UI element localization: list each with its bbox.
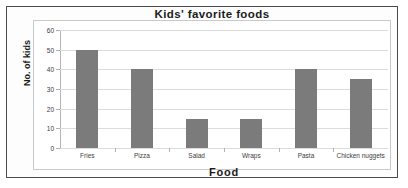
x-category-label: Wraps	[224, 152, 279, 160]
y-tick-label: 30	[47, 86, 54, 93]
x-category-label: Pizza	[115, 152, 170, 160]
bar	[186, 119, 208, 149]
y-tick-mark	[56, 50, 60, 51]
x-tick-mark	[115, 148, 116, 152]
y-tick-label: 60	[47, 27, 54, 34]
x-tick-mark	[279, 148, 280, 152]
y-tick-mark	[56, 69, 60, 70]
bar	[131, 69, 153, 148]
plot-area: 0102030405060FriesPizzaSaladWrapsPastaCh…	[60, 30, 388, 148]
gridline	[60, 89, 388, 90]
chart-figure: Kids' favorite foods No. of kids Food 01…	[0, 0, 408, 188]
gridline	[60, 50, 388, 51]
x-tick-mark	[333, 148, 334, 152]
y-tick-label: 50	[47, 46, 54, 53]
y-tick-label: 20	[47, 105, 54, 112]
y-tick-label: 40	[47, 66, 54, 73]
x-category-label: Pasta	[279, 152, 334, 160]
y-tick-label: 10	[47, 125, 54, 132]
x-category-label: Salad	[169, 152, 224, 160]
x-tick-mark	[224, 148, 225, 152]
x-axis-title: Food	[60, 166, 388, 178]
chart-title: Kids' favorite foods	[33, 8, 391, 20]
gridline	[60, 109, 388, 110]
y-tick-mark	[56, 109, 60, 110]
y-axis-title: No. of kids	[22, 30, 32, 96]
x-tick-mark	[169, 148, 170, 152]
bar	[295, 69, 317, 148]
x-category-label: Fries	[60, 152, 115, 160]
y-tick-mark	[56, 128, 60, 129]
bar	[350, 79, 372, 148]
y-tick-mark	[56, 89, 60, 90]
y-tick-mark	[56, 30, 60, 31]
bar	[76, 50, 98, 148]
bar	[240, 119, 262, 149]
gridline	[60, 30, 388, 31]
y-tick-mark	[56, 148, 60, 149]
x-category-label: Chicken nuggets	[333, 152, 388, 160]
gridline	[60, 128, 388, 129]
y-tick-label: 0	[50, 145, 54, 152]
gridline	[60, 69, 388, 70]
